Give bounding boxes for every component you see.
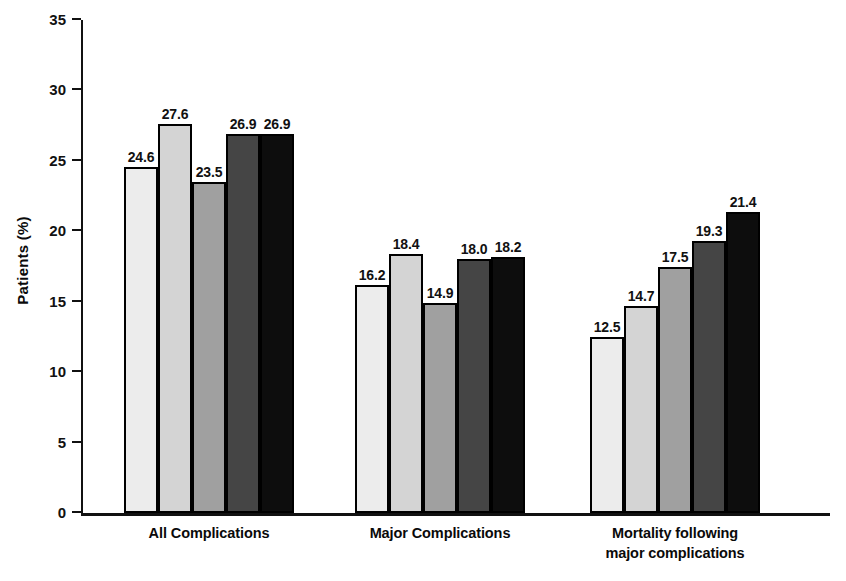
x-axis-category-label: Mortality followingmajor complications (545, 524, 805, 563)
bar[interactable]: 26.9 (260, 134, 294, 513)
x-axis-category-label: Major Complications (310, 524, 570, 544)
x-axis-category-label-line: All Complications (79, 524, 339, 544)
bar-value-label: 26.9 (230, 116, 256, 132)
bar-value-label: 18.0 (461, 241, 487, 257)
bar-value-label: 18.4 (393, 236, 419, 252)
y-axis-tick-label: 35 (49, 11, 66, 28)
bar-value-label: 18.2 (495, 239, 521, 255)
bar-group: 16.218.414.918.018.2 (355, 20, 525, 513)
y-axis-tick: 10 (72, 370, 81, 372)
y-axis-tick: 20 (72, 229, 81, 231)
y-axis-title-label: Patients (%) (14, 216, 31, 304)
bar[interactable]: 18.4 (389, 254, 423, 513)
y-axis-tick: 5 (72, 441, 81, 443)
bar-value-label: 19.3 (696, 223, 722, 239)
bar-value-label: 26.9 (264, 116, 290, 132)
y-axis-tick-label: 30 (49, 81, 66, 98)
bar[interactable]: 18.2 (491, 257, 525, 513)
bar[interactable]: 19.3 (692, 241, 726, 513)
bar[interactable]: 16.2 (355, 285, 389, 513)
y-axis-tick: 0 (72, 511, 81, 513)
bar-group: 12.514.717.519.321.4 (590, 20, 760, 513)
bar-value-label: 14.9 (427, 285, 453, 301)
bar[interactable]: 18.0 (457, 259, 491, 513)
bar[interactable]: 26.9 (226, 134, 260, 513)
y-axis-tick-label: 10 (49, 363, 66, 380)
y-axis-tick: 35 (72, 18, 81, 20)
y-axis-tick-label: 5 (58, 433, 66, 450)
y-axis-tick: 25 (72, 159, 81, 161)
bar-value-label: 14.7 (628, 288, 654, 304)
y-axis-tick-label: 15 (49, 292, 66, 309)
bar[interactable]: 12.5 (590, 337, 624, 513)
bar-value-label: 21.4 (730, 194, 756, 210)
bar-value-label: 17.5 (662, 249, 688, 265)
bar[interactable]: 17.5 (658, 267, 692, 514)
y-axis-tick-label: 0 (58, 504, 66, 521)
bar[interactable]: 27.6 (158, 124, 192, 513)
bar-chart: Patients (%) 05101520253035 24.627.623.5… (0, 0, 846, 581)
bar[interactable]: 24.6 (124, 167, 158, 514)
x-axis-category-label: All Complications (79, 524, 339, 544)
plot-area: 05101520253035 24.627.623.526.926.916.21… (81, 20, 830, 515)
x-axis-category-labels: All ComplicationsMajor ComplicationsMort… (81, 524, 830, 581)
bar-value-label: 23.5 (196, 164, 222, 180)
y-axis-tick: 30 (72, 88, 81, 90)
x-axis-category-label-line: major complications (545, 544, 805, 564)
x-axis-category-label-line: Major Complications (310, 524, 570, 544)
y-axis-title: Patients (%) (4, 0, 40, 520)
bar-group: 24.627.623.526.926.9 (124, 20, 294, 513)
bar[interactable]: 14.7 (624, 306, 658, 513)
y-axis-tick-label: 25 (49, 151, 66, 168)
x-axis-category-label-line: Mortality following (545, 524, 805, 544)
bar[interactable]: 14.9 (423, 303, 457, 513)
bar-value-label: 12.5 (594, 319, 620, 335)
y-axis-tick: 15 (72, 300, 81, 302)
bar-value-label: 24.6 (128, 149, 154, 165)
bar-value-label: 16.2 (359, 267, 385, 283)
y-axis-tick-label: 20 (49, 222, 66, 239)
bar-value-label: 27.6 (162, 106, 188, 122)
bar[interactable]: 21.4 (726, 212, 760, 513)
bars-layer: 24.627.623.526.926.916.218.414.918.018.2… (81, 20, 830, 515)
bar[interactable]: 23.5 (192, 182, 226, 513)
